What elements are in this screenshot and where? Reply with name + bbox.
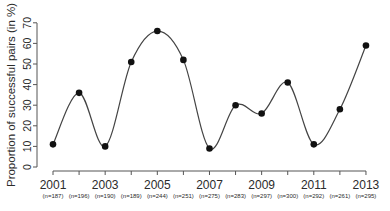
sample-size-label: (n=297) [251, 193, 272, 199]
data-point [337, 106, 344, 113]
y-axis-title: Proportion of successful pairs (in %) [5, 3, 17, 187]
data-point [363, 42, 370, 49]
x-tick-label: 2003 [92, 178, 119, 192]
x-axis: 2001(n=187)(n=196)2003(n=190)(n=189)2005… [40, 171, 380, 199]
y-tick-label: 0 [21, 164, 33, 170]
sample-size-label: (n=251) [173, 193, 194, 199]
sample-size-label: (n=300) [277, 193, 298, 199]
data-line [53, 31, 366, 149]
x-tick-label: 2011 [301, 178, 327, 192]
sample-size-label: (n=187) [43, 193, 64, 199]
y-tick-label: 60 [21, 37, 33, 49]
data-point [311, 141, 318, 148]
sample-size-label: (n=292) [303, 193, 324, 199]
sample-size-label: (n=275) [199, 193, 220, 199]
y-tick-label: 30 [21, 99, 33, 111]
data-point [154, 28, 161, 35]
x-tick-label: 2005 [144, 178, 171, 192]
x-tick-label: 2007 [196, 178, 223, 192]
data-point [50, 141, 57, 148]
data-point [284, 79, 291, 86]
sample-size-label: (n=190) [95, 193, 116, 199]
data-point [180, 57, 187, 64]
x-tick-label: 2013 [353, 178, 380, 192]
y-tick-label: 40 [21, 79, 33, 91]
x-tick-label: 2001 [40, 178, 67, 192]
sample-size-label: (n=295) [356, 193, 377, 199]
data-point [76, 90, 83, 97]
data-point [102, 143, 109, 150]
line-chart: 010203040506070 Proportion of successful… [0, 0, 390, 211]
sample-size-label: (n=261) [329, 193, 350, 199]
y-tick-label: 10 [21, 140, 33, 152]
data-points [50, 28, 370, 152]
data-point [128, 59, 135, 66]
sample-size-label: (n=244) [147, 193, 168, 199]
y-tick-label: 20 [21, 120, 33, 132]
data-point [206, 145, 213, 152]
sample-size-label: (n=283) [225, 193, 246, 199]
sample-size-label: (n=189) [121, 193, 142, 199]
x-tick-label: 2009 [248, 178, 275, 192]
y-tick-label: 50 [21, 58, 33, 70]
data-point [232, 102, 239, 109]
y-axis: 010203040506070 [21, 17, 37, 170]
data-point [258, 110, 265, 117]
sample-size-label: (n=196) [69, 193, 90, 199]
y-tick-label: 70 [21, 17, 33, 29]
